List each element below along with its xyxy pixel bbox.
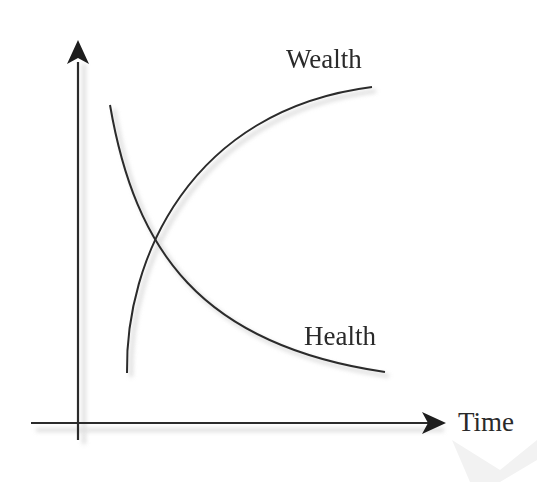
watermark-chevron — [452, 440, 537, 482]
x-axis-label: Time — [458, 409, 514, 436]
health-label: Health — [304, 323, 376, 350]
wealth-label: Wealth — [286, 46, 362, 73]
shadow-layer — [36, 64, 444, 444]
y-axis-arrowhead-icon — [67, 40, 89, 64]
wealth-health-diagram — [0, 0, 537, 482]
